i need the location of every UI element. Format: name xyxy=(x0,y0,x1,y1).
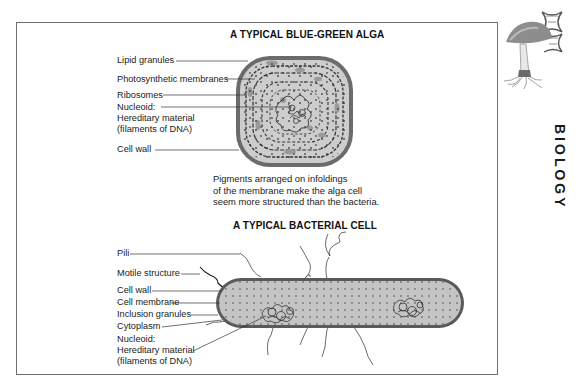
label-motile-structure: Motile structure xyxy=(117,268,180,279)
label-pili: Pili xyxy=(117,248,129,259)
label-hereditary-material: Hereditary material xyxy=(117,345,195,356)
label-ribosomes: Ribosomes xyxy=(117,90,163,101)
label-cell-wall: Cell wall xyxy=(117,285,151,296)
label-lipid-granules: Lipid granules xyxy=(117,55,174,66)
bacteria-title: A TYPICAL BACTERIAL CELL xyxy=(233,220,377,231)
label-inclusion-granules: Inclusion granules xyxy=(117,309,191,320)
mushroom-dna-icon xyxy=(500,4,576,104)
alga-caption: Pigments arranged on infoldings of the m… xyxy=(213,173,379,208)
alga-cell xyxy=(236,56,353,167)
label-cytoplasm: Cytoplasm xyxy=(117,321,160,332)
label-photosynthetic-membranes: Photosynthetic membranes xyxy=(117,74,228,85)
alga-title: A TYPICAL BLUE-GREEN ALGA xyxy=(230,29,384,40)
label-dna-filaments: (filaments of DNA) xyxy=(117,356,192,367)
label-hereditary-material: Hereditary material xyxy=(117,113,195,124)
label-nucleoid: Nucleoid: xyxy=(117,102,155,113)
label-cell-wall: Cell wall xyxy=(117,144,151,155)
label-dna-filaments: (filaments of DNA) xyxy=(117,124,192,135)
label-cell-membrane: Cell membrane xyxy=(117,297,179,308)
biology-title: BIOLOGY xyxy=(548,124,568,224)
bacterial-cell xyxy=(200,232,464,365)
label-nucleoid: Nucleoid: xyxy=(117,334,155,345)
